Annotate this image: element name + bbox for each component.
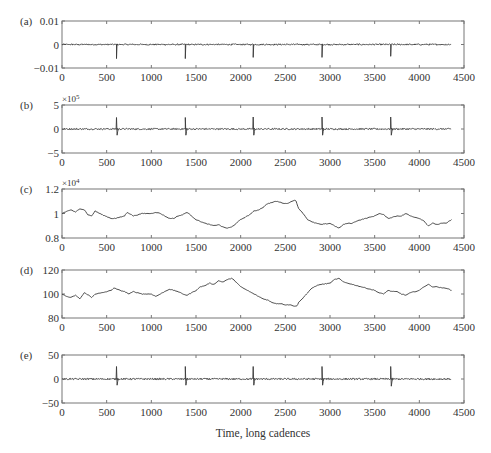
y-tick-label: 80	[48, 312, 60, 324]
x-tick-label: 4500	[453, 406, 476, 418]
x-tick-label: 4500	[453, 156, 476, 168]
panel-label: (b)	[20, 99, 33, 112]
x-tick-label: 0	[59, 241, 65, 253]
y-tick-label: −50	[42, 397, 60, 409]
x-tick-label: 1500	[185, 241, 208, 253]
y-tick-label: 0	[54, 123, 60, 135]
panel-label: (a)	[20, 15, 33, 28]
y-tick-label: 1	[54, 208, 60, 220]
data-series	[62, 117, 451, 135]
x-tick-label: 3500	[364, 406, 387, 418]
y-tick-label: 120	[43, 264, 60, 276]
x-tick-label: 500	[98, 156, 115, 168]
y-tick-label: 0	[54, 39, 60, 51]
x-tick-label: 2000	[230, 156, 253, 168]
panel-label: (e)	[20, 349, 33, 362]
x-tick-label: 3500	[364, 156, 387, 168]
x-tick-label: 4500	[453, 241, 476, 253]
x-tick-label: 4000	[408, 321, 431, 333]
plot-frame	[62, 189, 464, 238]
x-tick-label: 1000	[140, 241, 163, 253]
x-tick-label: 3000	[319, 321, 342, 333]
x-tick-label: 500	[98, 321, 115, 333]
x-tick-label: 3000	[319, 406, 342, 418]
x-tick-label: 2000	[230, 406, 253, 418]
x-tick-label: 2500	[274, 321, 297, 333]
x-tick-label: 3500	[364, 241, 387, 253]
x-tick-label: 1000	[140, 156, 163, 168]
x-tick-label: 500	[98, 71, 115, 83]
axis-exponent: ×105	[62, 93, 80, 104]
y-tick-label: 0	[54, 373, 60, 385]
y-tick-label: 50	[48, 349, 60, 361]
x-tick-label: 4500	[453, 71, 476, 83]
x-tick-label: 1000	[140, 321, 163, 333]
x-tick-label: 4000	[408, 71, 431, 83]
x-tick-label: 1500	[185, 321, 208, 333]
x-tick-label: 4500	[453, 321, 476, 333]
x-tick-label: 4000	[408, 406, 431, 418]
y-tick-label: 5	[54, 99, 60, 111]
x-tick-label: 2000	[230, 71, 253, 83]
y-tick-label: −5	[47, 147, 59, 159]
x-tick-label: 1000	[140, 406, 163, 418]
x-tick-label: 2000	[230, 321, 253, 333]
data-series	[62, 367, 451, 387]
x-tick-label: 4000	[408, 156, 431, 168]
x-tick-label: 1500	[185, 406, 208, 418]
x-tick-label: 0	[59, 71, 65, 83]
x-tick-label: 2500	[274, 71, 297, 83]
panel-c: 0500100015002000250030003500400045000.81…	[20, 177, 476, 253]
data-series	[62, 200, 452, 228]
x-tick-label: 2000	[230, 241, 253, 253]
y-tick-label: 1.2	[45, 183, 59, 195]
y-tick-label: −0.01	[34, 62, 59, 74]
x-tick-label: 2500	[274, 406, 297, 418]
x-tick-label: 3500	[364, 71, 387, 83]
x-tick-label: 500	[98, 406, 115, 418]
panel-a: 050010001500200025003000350040004500−0.0…	[20, 15, 476, 83]
y-tick-label: 0.8	[45, 232, 59, 244]
x-tick-label: 500	[98, 241, 115, 253]
y-tick-label: 0.01	[40, 15, 59, 27]
y-tick-label: 100	[43, 288, 60, 300]
x-tick-label: 3000	[319, 71, 342, 83]
x-tick-label: 1500	[185, 71, 208, 83]
figure: 050010001500200025003000350040004500−0.0…	[0, 0, 491, 453]
x-tick-label: 2500	[274, 156, 297, 168]
panel-d: 0500100015002000250030003500400045008010…	[20, 264, 476, 333]
x-tick-label: 1000	[140, 71, 163, 83]
panel-b: 050010001500200025003000350040004500−505…	[20, 93, 476, 168]
data-series	[62, 278, 452, 306]
x-tick-label: 3500	[364, 321, 387, 333]
panel-label: (d)	[20, 264, 33, 277]
panel-e: 050010001500200025003000350040004500−500…	[20, 349, 476, 418]
x-tick-label: 0	[59, 406, 65, 418]
panel-label: (c)	[20, 183, 33, 196]
x-tick-label: 3000	[319, 156, 342, 168]
data-series	[62, 44, 451, 59]
x-tick-label: 1500	[185, 156, 208, 168]
x-tick-label: 2500	[274, 241, 297, 253]
x-axis-label: Time, long cadences	[216, 427, 311, 440]
x-tick-label: 4000	[408, 241, 431, 253]
x-tick-label: 0	[59, 321, 65, 333]
x-tick-label: 0	[59, 156, 65, 168]
axis-exponent: ×104	[62, 177, 80, 188]
x-tick-label: 3000	[319, 241, 342, 253]
